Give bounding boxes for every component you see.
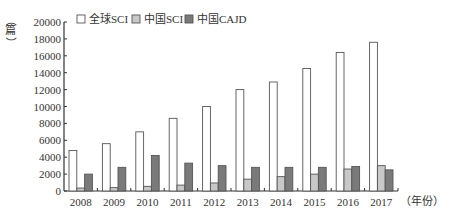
y-tick-label: 18000 bbox=[34, 33, 62, 45]
y-tick-label: 2000 bbox=[39, 168, 62, 180]
bar-china-cajd bbox=[352, 166, 360, 191]
legend-label: 中国SCI bbox=[144, 13, 183, 25]
x-unit-label: （年份） bbox=[400, 194, 444, 207]
bar-chart: 0200040006000800010000120001400016000180… bbox=[0, 0, 457, 219]
bar-global-sci bbox=[236, 90, 244, 191]
x-tick-label: 2015 bbox=[304, 196, 327, 208]
bar-global-sci bbox=[136, 132, 144, 191]
y-unit-label: 篇 bbox=[5, 23, 16, 36]
y-tick-label: 20000 bbox=[34, 16, 62, 28]
bar-china-sci bbox=[77, 188, 85, 191]
bar-china-cajd bbox=[385, 170, 393, 191]
legend-label: 全球SCI bbox=[89, 12, 128, 25]
legend-swatch bbox=[132, 15, 140, 23]
bar-global-sci bbox=[69, 150, 77, 191]
legend-label: 中国CAJD bbox=[197, 13, 247, 25]
bar-china-sci bbox=[210, 183, 218, 191]
x-tick-label: 2008 bbox=[70, 196, 93, 208]
y-tick-label: 16000 bbox=[34, 50, 62, 62]
bar-china-sci bbox=[144, 186, 152, 191]
x-tick-label: 2011 bbox=[170, 196, 192, 208]
legend: 全球SCI中国SCI中国CAJD bbox=[77, 12, 247, 25]
x-tick-label: 2010 bbox=[137, 196, 160, 208]
bar-global-sci bbox=[336, 52, 344, 191]
x-tick-label: 2016 bbox=[337, 196, 360, 208]
bar-china-sci bbox=[244, 179, 252, 191]
y-unit-close: ） bbox=[5, 37, 17, 48]
y-tick-label: 4000 bbox=[39, 151, 62, 163]
y-axis: 0200040006000800010000120001400016000180… bbox=[34, 16, 68, 197]
legend-swatch bbox=[185, 15, 193, 23]
bar-china-sci bbox=[377, 166, 385, 191]
bar-china-sci bbox=[344, 169, 352, 191]
bar-china-cajd bbox=[185, 163, 193, 191]
bar-global-sci bbox=[102, 144, 110, 191]
bar-global-sci bbox=[269, 82, 277, 191]
x-tick-label: 2009 bbox=[103, 196, 126, 208]
y-tick-label: 10000 bbox=[34, 101, 62, 113]
bar-china-cajd bbox=[85, 174, 93, 191]
bar-china-cajd bbox=[118, 167, 126, 191]
bar-china-cajd bbox=[285, 167, 293, 191]
x-tick-label: 2012 bbox=[203, 196, 225, 208]
bar-global-sci bbox=[169, 118, 177, 191]
bars bbox=[69, 42, 393, 191]
bar-china-cajd bbox=[218, 166, 226, 191]
bar-china-sci bbox=[177, 185, 185, 191]
y-tick-label: 14000 bbox=[34, 67, 62, 79]
bar-china-sci bbox=[110, 188, 118, 191]
bar-china-sci bbox=[277, 177, 285, 191]
y-tick-label: 8000 bbox=[39, 117, 62, 129]
bar-global-sci bbox=[370, 42, 378, 191]
bar-global-sci bbox=[203, 107, 211, 192]
y-tick-label: 12000 bbox=[34, 84, 62, 96]
bar-china-sci bbox=[311, 174, 319, 191]
bar-china-cajd bbox=[252, 167, 260, 191]
bar-china-cajd bbox=[318, 167, 326, 191]
legend-swatch bbox=[77, 15, 85, 23]
x-tick-label: 2017 bbox=[370, 196, 393, 208]
bar-global-sci bbox=[303, 68, 311, 191]
y-tick-label: 6000 bbox=[39, 134, 62, 146]
x-tick-label: 2014 bbox=[270, 196, 293, 208]
bar-china-cajd bbox=[151, 156, 159, 191]
x-tick-label: 2013 bbox=[237, 196, 260, 208]
y-tick-label: 0 bbox=[56, 185, 62, 197]
